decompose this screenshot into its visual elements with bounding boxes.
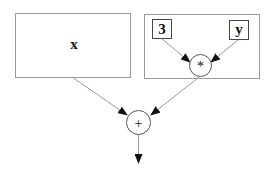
three-label: 3: [158, 21, 166, 37]
mult-subtree-box: 3 y *: [145, 15, 260, 79]
edge-x-to-plus: [72, 77, 127, 115]
y-label: y: [235, 21, 243, 37]
expression-diagram: x 3 y * +: [0, 0, 277, 173]
edge-mult-to-plus: [151, 77, 199, 115]
plus-label: +: [135, 116, 143, 131]
mult-label: *: [197, 59, 204, 74]
x-subtree-box: x: [16, 14, 131, 78]
x-label: x: [70, 36, 78, 52]
